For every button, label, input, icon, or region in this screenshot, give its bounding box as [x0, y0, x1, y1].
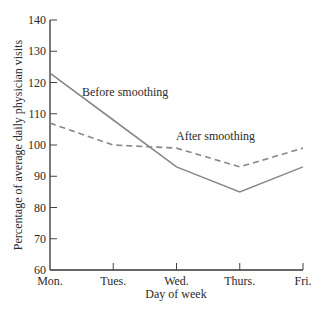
- y-tick-label: 80: [34, 201, 46, 215]
- y-axis-ticks: 60708090100110120130140: [28, 13, 57, 277]
- x-tick-label: Fri.: [294, 274, 311, 288]
- x-tick-label: Tues.: [100, 274, 126, 288]
- y-tick-label: 90: [34, 169, 46, 183]
- axes: [50, 20, 303, 270]
- y-tick-label: 70: [34, 232, 46, 246]
- x-axis-ticks: Mon.Tues.Wed.Thurs.Fri.: [37, 263, 311, 288]
- y-tick-label: 110: [28, 107, 46, 121]
- before-smoothing-label: Before smoothing: [82, 85, 168, 99]
- annotations: Before smoothingAfter smoothing: [82, 85, 255, 143]
- x-tick-label: Mon.: [37, 274, 63, 288]
- y-tick-label: 100: [28, 138, 46, 152]
- x-tick-label: Wed.: [164, 274, 189, 288]
- x-axis-title: Day of week: [145, 287, 206, 301]
- after-smoothing-label: After smoothing: [176, 129, 255, 143]
- line-chart: 60708090100110120130140 Mon.Tues.Wed.Thu…: [0, 0, 324, 317]
- y-axis-title: Percentage of average daily physician vi…: [11, 40, 25, 251]
- x-tick-label: Thurs.: [224, 274, 255, 288]
- y-tick-label: 140: [28, 13, 46, 27]
- y-tick-label: 120: [28, 76, 46, 90]
- y-tick-label: 130: [28, 44, 46, 58]
